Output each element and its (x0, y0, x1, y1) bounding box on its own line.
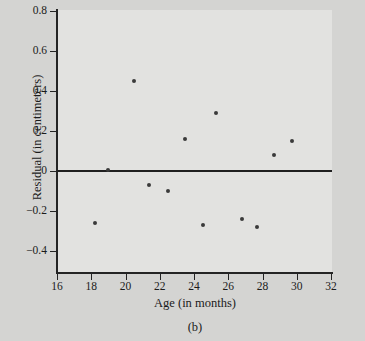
x-tick-label: 18 (76, 281, 106, 293)
x-tick-label: 20 (111, 281, 141, 293)
scatter-point (290, 139, 294, 143)
y-tick-mark (50, 131, 57, 132)
y-axis-label: Residual (in centimeters) (30, 38, 45, 238)
y-tick-mark (50, 211, 57, 212)
scatter-point (93, 221, 97, 225)
y-tick-mark (50, 11, 57, 12)
zero-reference-line (57, 170, 332, 172)
y-axis-line (56, 9, 58, 274)
y-tick-label: 0.8 (33, 5, 47, 17)
figure-caption: (b) (58, 320, 332, 335)
x-tick-label: 28 (248, 281, 278, 293)
scatter-point (201, 223, 205, 227)
residual-plot-figure: 0.80.60.40.20−0.2−0.4 161820222426283032… (0, 0, 365, 341)
x-tick-label: 24 (179, 281, 209, 293)
x-tick-label: 22 (145, 281, 175, 293)
x-tick-label: 32 (316, 281, 346, 293)
scatter-point (240, 217, 244, 221)
x-tick-label: 30 (282, 281, 312, 293)
y-tick-mark (50, 91, 57, 92)
x-axis-label: Age (in months) (58, 296, 332, 311)
y-tick-mark (50, 251, 57, 252)
y-tick-mark (50, 171, 57, 172)
x-tick-label: 16 (42, 281, 72, 293)
y-tick-label: −0.4 (26, 245, 47, 257)
x-tick-label: 26 (213, 281, 243, 293)
y-tick-mark (50, 51, 57, 52)
